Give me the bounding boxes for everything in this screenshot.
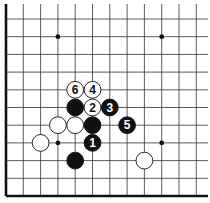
white-stone: 4 <box>84 81 101 98</box>
move-number-label: 3 <box>106 101 113 115</box>
star-point <box>159 34 164 39</box>
black-stone <box>67 152 84 169</box>
white-stone <box>67 117 84 134</box>
black-stone: 1 <box>84 135 101 152</box>
stone-disc <box>32 135 49 152</box>
go-board: 642351 <box>0 0 210 203</box>
white-stone: 6 <box>67 81 84 98</box>
stone-disc <box>67 152 84 169</box>
white-stone <box>50 117 67 134</box>
move-number-label: 5 <box>124 118 131 132</box>
move-number-label: 1 <box>89 136 96 150</box>
star-point <box>159 141 164 146</box>
white-stone <box>32 135 49 152</box>
star-point <box>56 34 61 39</box>
black-stone <box>67 99 84 116</box>
black-stone: 3 <box>101 99 118 116</box>
black-stone <box>84 117 101 134</box>
stone-disc <box>136 152 153 169</box>
black-stone: 5 <box>119 117 136 134</box>
stone-disc <box>67 117 84 134</box>
white-stone <box>136 152 153 169</box>
white-stone: 2 <box>84 99 101 116</box>
stone-disc <box>84 117 101 134</box>
stone-disc <box>67 99 84 116</box>
stone-disc <box>50 117 67 134</box>
move-number-label: 4 <box>89 83 96 97</box>
move-number-label: 2 <box>89 101 96 115</box>
star-point <box>56 141 61 146</box>
move-number-label: 6 <box>72 83 79 97</box>
